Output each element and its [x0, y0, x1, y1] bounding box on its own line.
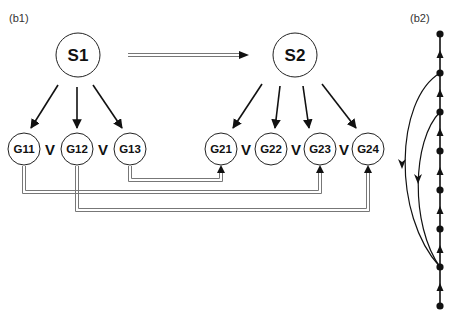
chain-node	[436, 147, 443, 154]
or-separator: V	[291, 141, 301, 158]
chain-node	[436, 186, 443, 193]
chain-node	[436, 69, 443, 76]
panel-label-b1: (b1)	[9, 12, 29, 24]
chain-node	[436, 302, 443, 309]
goal-node-g13: G13	[114, 133, 146, 165]
chain-node	[436, 108, 443, 115]
goal-node-g12: G12	[61, 133, 93, 165]
goal-label: G24	[357, 143, 379, 155]
goal-label: G11	[13, 143, 35, 155]
state-node-s2: S2	[273, 33, 317, 77]
goal-label: G23	[309, 143, 331, 155]
or-separator: V	[98, 141, 108, 158]
goal-node-g21: G21	[205, 133, 237, 165]
goal-label: G22	[260, 143, 282, 155]
mapping-g11-g23	[23, 165, 325, 194]
back-arc-outer	[405, 73, 440, 267]
goal-node-g22: G22	[255, 133, 287, 165]
or-separator: V	[241, 141, 251, 158]
goal-label: G21	[210, 143, 232, 155]
goal-label: G13	[119, 143, 141, 155]
or-separator: V	[45, 141, 55, 158]
goal-node-g11: G11	[8, 133, 40, 165]
state-label: S2	[285, 46, 306, 65]
back-arcs	[405, 73, 440, 267]
state-label: S1	[68, 46, 89, 65]
goal-node-g24: G24	[352, 133, 384, 165]
state-node-s1: S1	[56, 33, 100, 77]
goal-label: G12	[66, 143, 88, 155]
goal-node-g23: G23	[304, 133, 336, 165]
chain-node	[436, 225, 443, 232]
transition-arrow	[128, 51, 249, 59]
panel-b2	[398, 30, 444, 309]
diagram-canvas: (b1) (b2) S1 S2	[0, 0, 465, 318]
or-separator: V	[339, 141, 349, 158]
mapping-g13-g21	[129, 165, 226, 182]
panel-b1: S1 S2 G11 G12 G13	[8, 33, 384, 212]
chain-node	[436, 30, 443, 37]
s1-goal-arrows	[31, 85, 122, 128]
s2-goal-arrows	[233, 84, 356, 128]
panel-label-b2: (b2)	[410, 12, 430, 24]
chain-node	[436, 263, 443, 270]
